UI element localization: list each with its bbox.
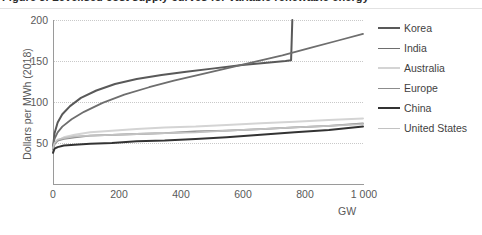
legend-item-india[interactable]: India (378, 38, 482, 58)
x-tick-200: 200 (103, 188, 135, 200)
legend-swatch-korea (378, 27, 400, 29)
x-tick-0: 0 (45, 188, 61, 200)
legend-label-europe: Europe (404, 82, 438, 94)
legend-label-australia: Australia (404, 62, 445, 74)
x-axis-title: GW (338, 205, 356, 217)
x-tick-800: 800 (289, 188, 321, 200)
legend-label-china: China (404, 102, 431, 114)
x-tick-600: 600 (227, 188, 259, 200)
legend-item-europe[interactable]: Europe (378, 78, 482, 98)
legend-swatch-australia (378, 67, 400, 69)
legend-item-china[interactable]: China (378, 98, 482, 118)
figure-caption: Figure 3. Levelised cost supply curves f… (2, 0, 369, 3)
legend-swatch-china (378, 107, 400, 109)
x-tick-1000: 1 000 (345, 188, 383, 200)
legend-label-india: India (404, 42, 427, 54)
legend-swatch-india (378, 48, 400, 49)
y-tick-150: 150 (20, 55, 48, 67)
legend-item-korea[interactable]: Korea (378, 18, 482, 38)
series-lines (53, 20, 363, 184)
legend-item-australia[interactable]: Australia (378, 58, 482, 78)
y-axis-ticks: 200 150 100 50 (14, 0, 48, 235)
legend-swatch-europe (378, 88, 400, 89)
legend-swatch-united-states (378, 128, 400, 129)
caption-divider (0, 8, 482, 9)
legend-item-united-states[interactable]: United States (378, 118, 482, 138)
legend-label-korea: Korea (404, 22, 432, 34)
y-tick-50: 50 (20, 137, 48, 149)
chart-legend: KoreaIndiaAustraliaEuropeChinaUnited Sta… (378, 18, 482, 138)
x-tick-400: 400 (165, 188, 197, 200)
x-axis-line (53, 184, 364, 185)
legend-label-united-states: United States (404, 122, 467, 134)
y-tick-100: 100 (20, 96, 48, 108)
chart-figure: Figure 3. Levelised cost supply curves f… (0, 0, 482, 235)
plot-area (53, 20, 363, 184)
y-tick-200: 200 (20, 14, 48, 26)
